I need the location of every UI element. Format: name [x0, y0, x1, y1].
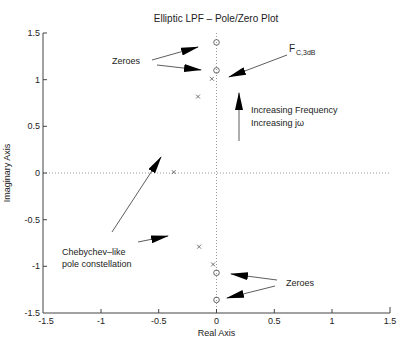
pole-marker — [197, 245, 201, 249]
x-tick-label: -1.5 — [38, 316, 54, 326]
y-tick-label: -1 — [32, 261, 40, 271]
y-tick-labels: 1.5 1 0.5 0 -0.5 -1 -1.5 — [24, 28, 40, 318]
x-ticks — [101, 307, 390, 313]
x-tick-labels: -1.5 -1 -0.5 0 0.5 1 1.5 — [38, 316, 396, 326]
y-tick-label: 1 — [35, 75, 40, 85]
pole-markers — [172, 77, 215, 267]
y-ticks — [43, 33, 47, 266]
x-axis-label: Real Axis — [198, 328, 236, 338]
x-tick-label: 0.5 — [268, 316, 281, 326]
arrow-to-upper-zero — [157, 65, 201, 70]
annotation-fc-subscript: C,3dB — [296, 49, 316, 56]
y-axis-label: Imaginary Axis — [2, 143, 12, 202]
x-tick-label: 1 — [329, 316, 334, 326]
pole-marker — [210, 77, 214, 81]
arrow-to-lower-zero — [231, 274, 277, 280]
omega-symbol: ω — [297, 118, 304, 128]
arrow-to-fc3db — [229, 55, 287, 77]
pole-marker — [172, 170, 176, 174]
annotation-fc-main: F — [289, 43, 295, 54]
arrow-to-real-pole — [112, 157, 161, 232]
x-tick-label: -1 — [97, 316, 105, 326]
y-tick-label: -0.5 — [24, 215, 40, 225]
arrow-to-lower-pole — [138, 236, 168, 242]
arrow-to-lower-zero — [227, 286, 275, 298]
y-tick-label: 0 — [35, 168, 40, 178]
arrow-to-upper-zero — [152, 47, 198, 60]
chart-title: Elliptic LPF – Pole/Zero Plot — [154, 13, 279, 24]
annotation-zeroes-bottom: Zeroes — [286, 278, 315, 288]
increasing-jw-prefix: Increasing j — [251, 118, 297, 128]
y-tick-label: 1.5 — [27, 28, 40, 38]
annotation-increasing-frequency: Increasing Frequency — [251, 105, 338, 115]
x-tick-label: 1.5 — [384, 316, 397, 326]
pole-marker — [211, 262, 215, 266]
annotation-increasing-jw: Increasing jω — [251, 118, 304, 128]
y-tick-label: 0.5 — [27, 121, 40, 131]
annotation-zeroes-top: Zeroes — [112, 56, 141, 66]
pole-marker — [196, 95, 200, 99]
annotation-chebychev-line2: pole constellation — [62, 259, 132, 269]
pole-zero-chart: Elliptic LPF – Pole/Zero Plot 1.5 1 0.5 … — [0, 0, 412, 346]
x-tick-label: -0.5 — [151, 316, 167, 326]
annotation-chebychev-line1: Chebychev–like — [62, 247, 126, 257]
x-tick-label: 0 — [214, 316, 219, 326]
